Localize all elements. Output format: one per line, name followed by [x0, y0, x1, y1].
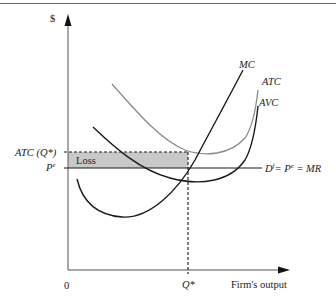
avc-curve — [93, 106, 258, 182]
y-axis-label: $ — [50, 13, 55, 24]
x-axis-arrow-icon — [278, 267, 290, 274]
q-star-label: Q* — [182, 279, 196, 290]
origin-label: 0 — [64, 280, 69, 291]
atc-q-label: ATC (Q*) — [14, 147, 57, 159]
y-axis-arrow-icon — [65, 14, 72, 26]
diagram-frame: $ 0 Q* Firm's output ATC (Q*) Pe Loss Df… — [0, 0, 336, 305]
mc-curve — [77, 70, 243, 217]
atc-curve — [112, 84, 258, 154]
demand-label: Df= Pe = MR — [264, 162, 322, 174]
pe-label: Pe — [45, 161, 56, 173]
x-axis-label: Firm's output — [231, 279, 287, 290]
cost-curves-diagram: $ 0 Q* Firm's output ATC (Q*) Pe Loss Df… — [0, 0, 336, 305]
atc-label: ATC — [261, 76, 282, 87]
loss-label: Loss — [76, 155, 96, 166]
avc-label: AVC — [258, 97, 279, 108]
mc-label: MC — [238, 59, 256, 70]
